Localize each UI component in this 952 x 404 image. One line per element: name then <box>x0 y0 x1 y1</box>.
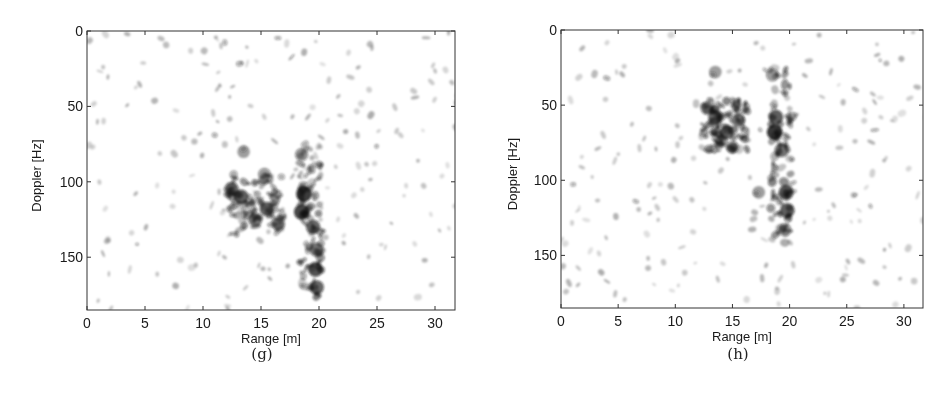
y-tick-label: 0 <box>549 22 557 38</box>
heatmap-g: 051015202530050100150Range [m]Doppler [H… <box>0 0 476 404</box>
y-tick-label: 100 <box>534 172 558 188</box>
x-axis-label: Range [m] <box>712 329 772 344</box>
x-tick-label: 15 <box>253 315 269 331</box>
x-tick-label: 10 <box>668 313 684 329</box>
x-tick-label: 25 <box>839 313 855 329</box>
speckle-layer <box>558 28 928 311</box>
y-tick-label: 100 <box>60 174 84 190</box>
y-tick-label: 150 <box>534 247 558 263</box>
heatmap-h: 051015202530050100150Range [m]Doppler [H… <box>476 0 952 404</box>
x-tick-label: 20 <box>311 315 327 331</box>
y-tick-label: 150 <box>60 249 84 265</box>
caption-h: (h) <box>708 345 768 363</box>
x-tick-label: 20 <box>782 313 798 329</box>
y-tick-label: 50 <box>541 97 557 113</box>
x-tick-label: 30 <box>896 313 912 329</box>
x-tick-label: 5 <box>614 313 622 329</box>
panel-g: 051015202530050100150Range [m]Doppler [H… <box>0 0 476 404</box>
x-tick-label: 15 <box>725 313 741 329</box>
x-tick-label: 5 <box>141 315 149 331</box>
x-tick-label: 0 <box>83 315 91 331</box>
speckle-layer <box>83 27 460 314</box>
x-tick-label: 10 <box>195 315 211 331</box>
y-axis-label: Doppler [Hz] <box>29 139 44 211</box>
y-tick-label: 50 <box>67 98 83 114</box>
x-axis-label: Range [m] <box>241 331 301 346</box>
axes-frame <box>87 31 455 310</box>
y-axis-label: Doppler [Hz] <box>505 138 520 210</box>
x-tick-label: 25 <box>369 315 385 331</box>
y-tick-label: 0 <box>75 23 83 39</box>
panel-h: 051015202530050100150Range [m]Doppler [H… <box>476 0 952 404</box>
x-tick-label: 0 <box>557 313 565 329</box>
caption-g: (g) <box>232 345 292 363</box>
x-tick-label: 30 <box>427 315 443 331</box>
